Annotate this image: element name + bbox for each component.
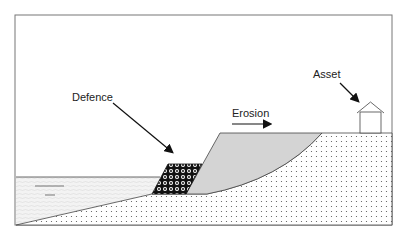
- defence-label: Defence: [72, 91, 113, 103]
- asset-house-icon: [360, 112, 381, 133]
- erosion-label: Erosion: [232, 107, 269, 119]
- coastal-erosion-diagram: [0, 0, 413, 239]
- asset-label: Asset: [313, 68, 341, 80]
